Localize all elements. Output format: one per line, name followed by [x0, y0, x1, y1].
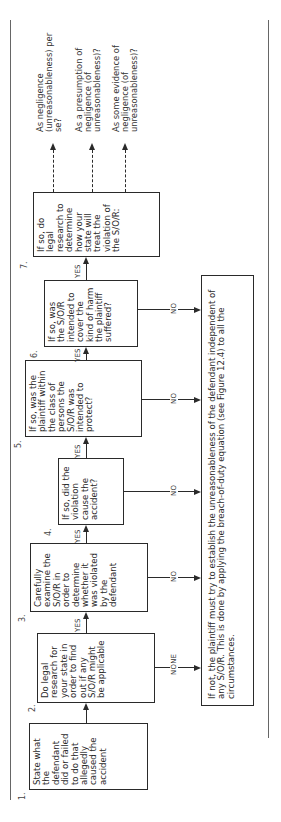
connector-6-no: [138, 309, 194, 310]
step-3-number: 3.: [18, 614, 27, 622]
step-1-box: State what the defendant did or failed t…: [29, 723, 148, 790]
arrow-icon: [83, 257, 89, 264]
step-6-box: If so, was the S/O/R intended to cover t…: [44, 280, 138, 347]
connector-5-6: [86, 354, 87, 360]
connector-4-no: [124, 491, 194, 492]
arrow-icon: [83, 347, 89, 354]
yes-label-2-3: YES: [74, 618, 82, 632]
fallback-box: If not, the plaintiff must try to establ…: [201, 275, 254, 706]
no-label-3: NO: [170, 570, 178, 583]
step-4-box: If so, did the violation cause the accid…: [58, 458, 124, 525]
connector-4-5: [86, 444, 87, 458]
outcome-some-evidence: As some evidence of negligence (of unrea…: [112, 22, 139, 132]
no-label-5: NO: [170, 392, 178, 405]
arrow-icon: [83, 612, 89, 619]
arrow-icon: [194, 575, 201, 581]
no-label-6: NO: [170, 302, 178, 315]
no-label-4: NO: [170, 484, 178, 497]
step-7-number: 7.: [20, 261, 29, 269]
arrow-icon: [83, 437, 89, 444]
step-1-number: 1.: [18, 792, 27, 800]
outcome-connector-1: [53, 150, 54, 192]
arrow-icon: [83, 525, 89, 532]
yes-label-4-5: YES: [74, 444, 82, 458]
yes-label-5-6: YES: [74, 348, 82, 362]
outcome-negligence-per-se: As negligence (unreasonableness) per se?: [36, 22, 63, 132]
step-5-number: 5.: [14, 440, 23, 448]
connector-3-4: [86, 532, 87, 543]
step-6-number: 6.: [30, 350, 39, 358]
step-2-number: 2.: [28, 704, 37, 712]
top-page-rule: [10, 20, 11, 800]
arrow-icon: [89, 143, 95, 150]
connector-2-3: [86, 619, 87, 633]
step-2-box: Do legal research for your state in orde…: [37, 633, 155, 703]
bottom-page-rule: [268, 20, 269, 738]
arrow-icon: [194, 397, 201, 403]
outcome-connector-2: [92, 150, 93, 192]
step-5-box: If so, was the plaintiff within the clas…: [25, 360, 142, 437]
arrow-icon: [194, 307, 201, 313]
connector-5-no: [142, 399, 194, 400]
arrow-icon: [194, 489, 201, 495]
arrow-icon: [83, 703, 89, 710]
flowchart-page: 1. 2. 3. 4. 5. 6. 7. State what the defe…: [0, 0, 281, 822]
none-label: NONE: [170, 653, 178, 676]
arrow-icon: [194, 665, 201, 671]
yes-label-6-7: YES: [74, 264, 82, 278]
yes-label-3-4: YES: [74, 529, 82, 543]
arrow-icon: [122, 143, 128, 150]
outcome-presumption: As a presumption of negligence (of unrea…: [75, 22, 102, 132]
step-3-box: Carefully examine the S/O/R in order to …: [30, 543, 148, 612]
connector-6-7: [86, 264, 87, 280]
connector-1-2: [86, 710, 87, 723]
step-7-box: If so, do legal research to determine ho…: [33, 192, 160, 257]
outcome-connector-3: [125, 150, 126, 192]
arrow-icon: [50, 143, 56, 150]
step-4-number: 4.: [44, 528, 53, 536]
